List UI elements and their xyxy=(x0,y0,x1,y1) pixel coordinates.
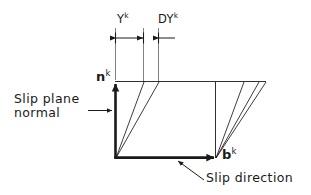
normal-vector-superscript: k xyxy=(105,68,110,78)
label-slip-plane-normal: Slip plane normal xyxy=(14,92,79,120)
label-normal-vector: nk xyxy=(96,69,110,85)
label-gamma-dimension: Yk xyxy=(117,12,129,26)
burgers-vector-base: b xyxy=(222,147,232,162)
shear-lines-left xyxy=(116,82,159,158)
leader-slip-direction xyxy=(178,161,204,180)
dimension-extension-lines xyxy=(116,28,159,82)
burgers-vector-superscript: k xyxy=(232,146,237,156)
delta-gamma-base: DY xyxy=(158,12,174,26)
label-delta-gamma-dimension: DYk xyxy=(158,12,178,26)
figure-canvas: Slip plane normal Yk DYk nk bk Slip dire… xyxy=(0,0,311,195)
delta-gamma-superscript: k xyxy=(174,11,178,20)
dimension-bars xyxy=(116,33,176,44)
label-burgers-vector: bk xyxy=(222,147,236,163)
label-slip-direction: Slip direction xyxy=(206,171,293,185)
gamma-superscript: k xyxy=(124,11,128,20)
